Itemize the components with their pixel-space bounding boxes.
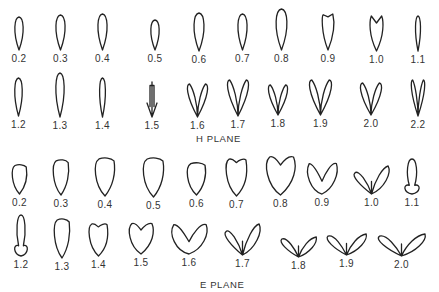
radiation-lobe-icon: [99, 78, 106, 117]
pattern-label: 1.8: [279, 260, 319, 271]
radiation-lobe-icon: [54, 218, 70, 258]
radiation-lobe-icon: [275, 9, 288, 50]
pattern-label: 0.4: [85, 199, 125, 210]
pattern-label: 1.7: [223, 258, 263, 269]
radiation-lobe-icon: [14, 17, 24, 50]
radiation-lobe-icon: [13, 215, 29, 256]
radiation-lobe-icon: [377, 234, 426, 256]
e-plane-title: E PLANE: [200, 279, 244, 290]
pattern-label: 0.7: [223, 53, 263, 64]
pattern-label: 1.1: [398, 54, 438, 65]
radiation-lobe-icon: [193, 13, 205, 51]
radiation-lobe-icon: [187, 84, 208, 117]
pattern-label: 1.8: [258, 118, 298, 129]
radiation-lobe-icon: [224, 224, 261, 255]
pattern-label: 0.7: [217, 199, 257, 210]
pattern-label: 1.9: [327, 258, 367, 269]
pattern-label: 1.6: [178, 120, 218, 131]
pattern-label: 0.6: [179, 54, 219, 65]
radiation-lobe-icon: [150, 20, 160, 50]
pattern-label: 0.9: [302, 197, 342, 208]
radiation-lobe-icon: [55, 15, 66, 50]
radiation-lobe-icon: [306, 162, 338, 194]
radiation-lobe-icon: [227, 80, 249, 116]
radiation-lobe-icon: [415, 16, 421, 51]
pattern-label: 0.8: [261, 198, 301, 209]
pattern-label: 1.5: [132, 120, 172, 131]
radiation-lobe-icon: [147, 82, 157, 117]
radiation-lobe-icon: [370, 16, 383, 51]
radiation-lobe-icon: [280, 237, 317, 257]
radiation-lobe-icon: [128, 222, 154, 254]
pattern-label: 1.2: [1, 259, 41, 270]
radiation-lobe-icon: [237, 14, 248, 50]
pattern-label: 1.9: [301, 118, 341, 129]
pattern-label: 0.5: [135, 53, 175, 64]
radiation-lobe-icon: [14, 78, 23, 116]
radiation-lobe-icon: [411, 80, 425, 116]
pattern-label: 1.1: [392, 197, 432, 208]
pattern-label: 0.5: [134, 200, 174, 211]
pattern-label: 1.4: [83, 120, 123, 131]
pattern-label: 0.9: [308, 53, 348, 64]
pattern-label: 0.3: [41, 198, 81, 209]
radiation-lobe-icon: [53, 159, 69, 195]
h-plane-title: H PLANE: [196, 133, 241, 144]
radiation-lobe-icon: [143, 157, 164, 197]
radiation-lobe-icon: [89, 223, 108, 256]
pattern-label: 1.2: [0, 119, 39, 130]
pattern-label: 2.0: [351, 118, 391, 129]
pattern-label: 1.3: [40, 120, 80, 131]
pattern-label: 2.2: [398, 119, 438, 130]
pattern-label: 0.6: [177, 198, 217, 209]
radiation-lobe-icon: [360, 83, 382, 115]
radiation-lobe-icon: [326, 234, 367, 255]
pattern-label: 0.2: [0, 197, 40, 208]
radiation-lobe-icon: [187, 162, 206, 195]
radiation-lobe-icon: [12, 164, 27, 194]
radiation-lobe-icon: [226, 158, 247, 196]
radiation-lobe-icon: [55, 73, 65, 117]
pattern-label: 0.8: [262, 53, 302, 64]
radiation-lobe-icon: [95, 157, 115, 196]
pattern-label: 1.4: [79, 259, 119, 270]
radiation-lobe-icon: [403, 159, 421, 194]
radiation-lobe-icon: [170, 223, 208, 254]
pattern-label: 0.2: [0, 53, 39, 64]
radiation-lobe-icon: [353, 166, 390, 194]
pattern-label: 0.3: [41, 53, 81, 64]
pattern-label: 1.3: [42, 261, 82, 272]
pattern-label: 1.7: [218, 119, 258, 130]
pattern-label: 1.6: [169, 257, 209, 268]
radiation-lobe-icon: [268, 85, 288, 115]
radiation-lobe-icon: [97, 14, 108, 50]
radiation-lobe-icon: [265, 155, 296, 195]
pattern-label: 1.0: [352, 197, 392, 208]
pattern-label: 0.4: [83, 53, 123, 64]
radiation-lobe-icon: [322, 14, 334, 50]
pattern-label: 1.0: [357, 54, 397, 65]
pattern-label: 1.5: [121, 257, 161, 268]
pattern-label: 2.0: [382, 259, 422, 270]
radiation-lobe-icon: [309, 80, 332, 115]
